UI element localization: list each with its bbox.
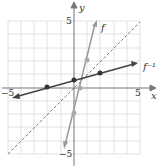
x-tick-neg: −5 xyxy=(1,88,15,98)
x-axis-label: x xyxy=(151,90,157,101)
y-tick-pos: 5 xyxy=(66,16,72,26)
graph: x y −5 5 5 −5 f f⁻¹ xyxy=(0,0,164,168)
y-tick-neg: −5 xyxy=(59,149,73,159)
f-inverse-line xyxy=(12,61,138,99)
f-inverse-label: f⁻¹ xyxy=(142,61,156,72)
f-label: f xyxy=(100,22,107,33)
f-line xyxy=(63,20,97,149)
x-tick-pos: 5 xyxy=(135,88,141,98)
y-axis-label: y xyxy=(78,2,85,13)
